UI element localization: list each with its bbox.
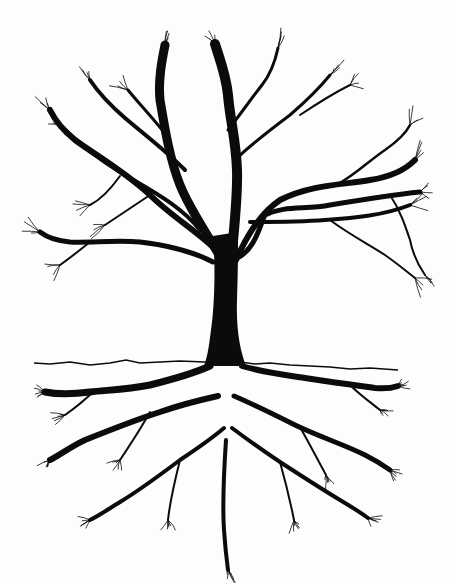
- twig: [53, 265, 60, 275]
- twig: [409, 109, 410, 125]
- twig: [22, 231, 40, 232]
- roots: [45, 366, 398, 570]
- branch: [237, 192, 420, 258]
- branch: [338, 125, 410, 184]
- root: [234, 396, 390, 470]
- root: [45, 366, 210, 394]
- twig: [76, 205, 90, 210]
- tree-illustration: [0, 0, 450, 583]
- twig: [93, 224, 105, 225]
- branch: [90, 176, 120, 205]
- twig: [350, 85, 364, 89]
- root: [242, 366, 398, 388]
- tree-drawing: [0, 0, 450, 583]
- twig: [54, 265, 60, 281]
- branch: [60, 242, 90, 265]
- twig: [28, 217, 40, 232]
- twig: [415, 278, 432, 280]
- twig: [350, 83, 359, 85]
- twig: [120, 460, 122, 470]
- twig: [410, 106, 413, 125]
- twig: [368, 516, 383, 518]
- branch: [235, 75, 330, 160]
- branch: [105, 195, 150, 225]
- twig: [410, 205, 428, 211]
- branch: [215, 44, 237, 265]
- twig: [44, 264, 60, 265]
- twig: [35, 96, 50, 110]
- root: [90, 428, 224, 520]
- twig: [90, 225, 105, 237]
- root: [232, 428, 368, 518]
- branch: [40, 232, 213, 262]
- twig: [415, 278, 421, 297]
- branch: [330, 220, 415, 278]
- twig: [50, 413, 65, 415]
- twig: [78, 516, 90, 520]
- twig: [325, 475, 326, 490]
- twig: [228, 570, 234, 579]
- twig: [410, 118, 423, 125]
- twig: [161, 520, 168, 530]
- twig: [420, 183, 429, 192]
- root: [223, 440, 228, 570]
